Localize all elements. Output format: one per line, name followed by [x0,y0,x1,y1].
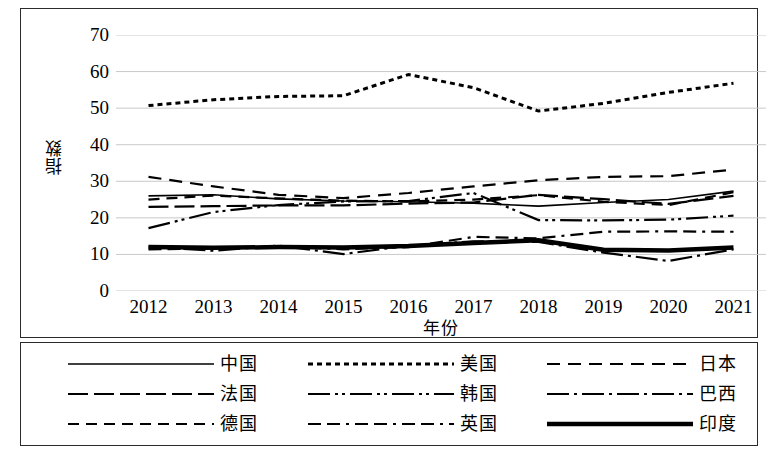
legend-line-swatch [66,386,216,402]
y-tick-label: 50 [69,98,109,117]
y-tick-label: 0 [69,281,109,300]
legend-line-swatch [306,356,456,372]
legend-item[interactable]: 印度 [508,409,747,439]
x-tick-label: 2012 [116,296,181,320]
legend-item[interactable]: 日本 [508,349,747,379]
legend-label: 德国 [220,414,262,434]
y-axis-ticks: 010203040506070 [63,9,109,339]
legend-line-swatch [545,356,695,372]
series-canvas [116,35,766,291]
y-tick-label: 20 [69,208,109,227]
x-tick-label: 2021 [701,296,766,320]
legend-item[interactable]: 中国 [29,349,268,379]
legend-line-swatch [545,386,695,402]
x-axis-title: 年份 [116,319,766,339]
y-tick-label: 40 [69,135,109,154]
legend-item[interactable]: 美国 [268,349,507,379]
legend-label: 韩国 [460,384,502,404]
series-line [149,193,734,228]
series-line [149,170,734,199]
legend-label: 印度 [699,414,741,434]
plot-area [116,35,766,291]
legend-panel: 中国美国日本法国韩国巴西德国英国印度 [20,342,758,446]
x-tick-label: 2020 [636,296,701,320]
legend-item[interactable]: 法国 [29,379,268,409]
series-lines [149,75,734,262]
legend-item[interactable]: 韩国 [268,379,507,409]
legend-label: 英国 [460,414,502,434]
x-tick-label: 2018 [506,296,571,320]
legend-label: 法国 [220,384,262,404]
x-tick-label: 2013 [181,296,246,320]
legend-label: 中国 [220,354,262,374]
x-tick-label: 2015 [311,296,376,320]
legend-item[interactable]: 英国 [268,409,507,439]
legend-line-swatch [306,416,456,432]
legend-line-swatch [545,416,695,432]
legend-label: 美国 [460,354,502,374]
legend-grid: 中国美国日本法国韩国巴西德国英国印度 [29,349,747,439]
x-tick-label: 2019 [571,296,636,320]
x-tick-label: 2017 [441,296,506,320]
legend-item[interactable]: 巴西 [508,379,747,409]
legend-line-swatch [66,356,216,372]
y-tick-label: 30 [69,171,109,190]
y-tick-label: 10 [69,244,109,263]
chart-screenshot: 指数 010203040506070 201220132014201520162… [0,0,780,460]
legend-line-swatch [306,386,456,402]
legend-item[interactable]: 德国 [29,409,268,439]
chart-panel: 指数 010203040506070 201220132014201520162… [20,8,758,338]
x-tick-label: 2016 [376,296,441,320]
x-tick-label: 2014 [246,296,311,320]
legend-label: 巴西 [699,384,741,404]
x-axis-ticks: 2012201320142015201620172018201920202021 [116,296,766,320]
legend-label: 日本 [699,354,741,374]
series-line [149,75,734,112]
y-tick-label: 70 [69,25,109,44]
legend-line-swatch [66,416,216,432]
y-tick-label: 60 [69,62,109,81]
